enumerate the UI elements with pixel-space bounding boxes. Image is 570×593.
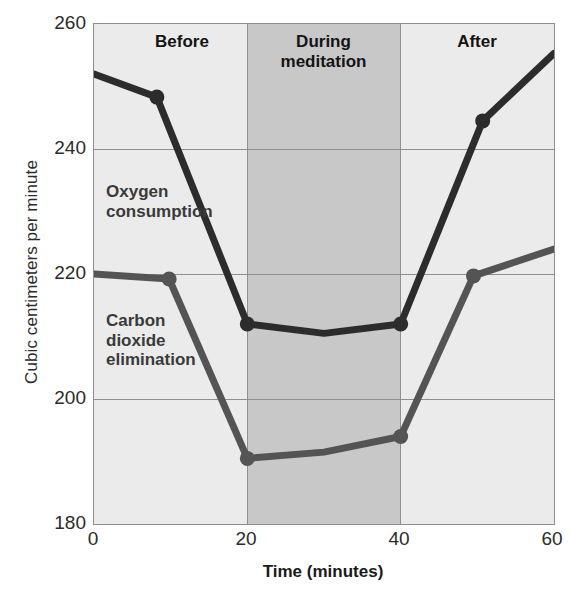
x-tick-0: 0 (63, 528, 123, 550)
y-tick-220: 220 (26, 262, 86, 284)
series-label-co2-line1: Carbon (106, 311, 166, 330)
data-point-marker (393, 429, 408, 444)
data-point-marker (475, 113, 490, 128)
series-label-co2-line3: elimination (106, 350, 196, 369)
plot-area: Before During meditation After Oxygen co… (93, 23, 555, 525)
data-point-marker (240, 451, 255, 466)
data-series-svg (94, 24, 554, 524)
x-tick-40: 40 (369, 528, 429, 550)
x-tick-20: 20 (216, 528, 276, 550)
chart-figure: Cubic centimeters per minute 260 240 220… (0, 0, 570, 593)
data-point-marker (393, 317, 408, 332)
series-label-oxygen-line2: consumption (106, 202, 213, 221)
series-label-co2-line2: dioxide (106, 331, 166, 350)
y-tick-260: 260 (26, 12, 86, 34)
series-label-oxygen-line1: Oxygen (106, 182, 168, 201)
series-label-oxygen: Oxygen consumption (106, 182, 213, 221)
band-label-before: Before (117, 32, 247, 52)
band-label-after: After (400, 32, 554, 52)
data-point-marker (162, 272, 177, 287)
series-label-co2: Carbon dioxide elimination (106, 311, 196, 370)
y-tick-200: 200 (26, 387, 86, 409)
y-axis-tick-labels: 260 240 220 200 180 (18, 0, 86, 593)
data-point-marker (149, 90, 164, 105)
band-label-during-line2: meditation (281, 52, 367, 71)
band-label-during-line1: During (296, 32, 351, 51)
band-label-during-meditation: During meditation (247, 32, 400, 73)
x-axis-title: Time (minutes) (93, 562, 553, 582)
y-tick-240: 240 (26, 137, 86, 159)
data-point-marker (240, 317, 255, 332)
data-point-marker (466, 268, 481, 283)
x-tick-60: 60 (522, 528, 570, 550)
